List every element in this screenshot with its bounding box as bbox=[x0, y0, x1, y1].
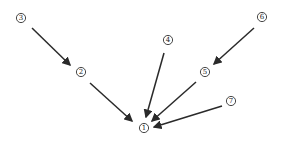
node-label: 5 bbox=[203, 68, 207, 76]
arrow-2-to-1 bbox=[90, 83, 132, 121]
node-6: 6 bbox=[257, 12, 266, 21]
node-label: 6 bbox=[260, 13, 265, 21]
node-label: 1 bbox=[142, 124, 146, 132]
arrow-7-to-1 bbox=[154, 106, 222, 127]
arrow-5-to-1 bbox=[152, 82, 196, 121]
node-4: 4 bbox=[163, 35, 172, 44]
node-label: 7 bbox=[229, 97, 233, 105]
node-1: 1 bbox=[139, 123, 148, 132]
node-7: 7 bbox=[226, 96, 235, 105]
node-label: 4 bbox=[166, 36, 171, 44]
arrow-6-to-5 bbox=[214, 28, 254, 64]
node-label: 3 bbox=[19, 14, 23, 22]
node-label: 2 bbox=[79, 68, 83, 76]
nodes-group: 1234567 bbox=[16, 12, 266, 132]
node-5: 5 bbox=[200, 67, 209, 76]
arrow-4-to-1 bbox=[146, 53, 164, 117]
node-2: 2 bbox=[76, 67, 85, 76]
arrow-3-to-2 bbox=[32, 28, 70, 65]
edges-group bbox=[32, 28, 254, 127]
dependency-diagram: 1234567 bbox=[0, 0, 283, 145]
node-3: 3 bbox=[16, 13, 25, 22]
